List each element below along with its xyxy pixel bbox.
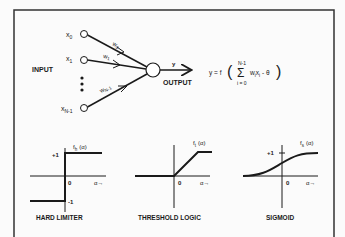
svg-text:): ) [276, 63, 281, 80]
output-label: OUTPUT [163, 79, 193, 86]
graph-sigmoid [243, 145, 318, 208]
weight-w1: w1 [102, 53, 111, 62]
threshold-zero: 0 [178, 180, 182, 186]
input-label: INPUT [32, 66, 54, 73]
svg-text:y = f: y = f [209, 69, 222, 77]
input-node-xn-1: xN-1 [61, 105, 88, 115]
sigmoid-axis-label: α→ [306, 180, 315, 186]
graph-threshold-logic [135, 145, 212, 208]
svg-text:i = 0: i = 0 [237, 80, 247, 86]
hard-limiter-minus-one: -1 [68, 199, 74, 205]
perceptron-diagram: INPUT x0 x1 xN-1 w0 w1 wN-1 y OUTPUT y =… [0, 0, 345, 237]
svg-text:wixi- θ: wixi- θ [249, 69, 270, 78]
threshold-axis-label: α→ [200, 180, 209, 186]
ellipsis-dots [80, 76, 83, 91]
input-node-x1: x1 [66, 55, 88, 64]
svg-text:x0: x0 [66, 31, 73, 40]
svg-text:xN-1: xN-1 [61, 105, 73, 114]
input-node-x0: x0 [66, 31, 88, 41]
hard-limiter-zero: 0 [68, 180, 72, 186]
sigmoid-title: SIGMOID [266, 214, 294, 221]
threshold-title: THRESHOLD LOGIC [138, 214, 201, 221]
threshold-fn-label: ft(α) [193, 140, 205, 148]
sigmoid-fn-label: fs(α) [300, 140, 313, 148]
output-symbol: y [172, 61, 176, 67]
hard-limiter-title: HARD LIMITER [36, 214, 83, 221]
sigmoid-zero: 0 [286, 180, 290, 186]
hard-limiter-plus-one: +1 [52, 152, 60, 158]
hard-limiter-axis-label: α→ [94, 180, 103, 186]
neuron-node [146, 63, 160, 77]
svg-text:x1: x1 [66, 55, 73, 64]
sigmoid-plus-one: +1 [267, 150, 275, 156]
svg-text:(: ( [227, 63, 233, 80]
hard-limiter-fn-label: fh(α) [73, 144, 87, 152]
svg-text:Σ: Σ [237, 66, 244, 80]
activation-formula: y = f ( N-1 Σ i = 0 wixi- θ ) [209, 60, 281, 86]
